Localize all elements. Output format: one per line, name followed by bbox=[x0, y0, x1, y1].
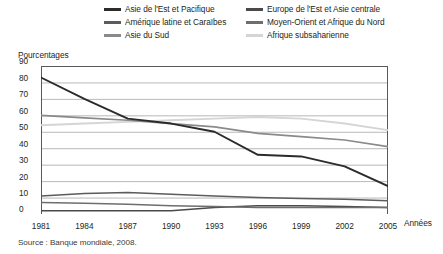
x-tick-label-1996: 1996 bbox=[241, 222, 275, 230]
legend-swatch-icon bbox=[246, 8, 263, 10]
y-tick-label-60: 60 bbox=[19, 107, 41, 115]
legend-item-label: Afrique subsaharienne bbox=[267, 29, 349, 42]
legend-item-1[interactable]: Europe de l'Est et Asie centrale bbox=[246, 3, 440, 16]
chart-legend: Asie de l'Est et PacifiqueEurope de l'Es… bbox=[104, 3, 440, 42]
legend-swatch-icon bbox=[104, 8, 121, 10]
legend-swatch-icon bbox=[104, 34, 121, 36]
x-tick-label-1999: 1999 bbox=[284, 222, 318, 230]
series-line-0 bbox=[41, 78, 388, 187]
plot-svg bbox=[41, 66, 388, 214]
x-tick-label-1981: 1981 bbox=[24, 222, 58, 230]
legend-item-4[interactable]: Asie du Sud bbox=[104, 29, 246, 42]
legend-item-5[interactable]: Afrique subsaharienne bbox=[246, 29, 440, 42]
legend-item-label: Europe de l'Est et Asie centrale bbox=[267, 3, 380, 16]
legend-item-label: Asie du Sud bbox=[125, 29, 169, 42]
legend-item-3[interactable]: Moyen-Orient et Afrique du Nord bbox=[246, 16, 440, 29]
source-note: Source : Banque mondiale, 2008. bbox=[18, 238, 137, 247]
y-tick-label-50: 50 bbox=[19, 123, 41, 131]
y-tick-label-40: 40 bbox=[19, 140, 41, 148]
legend-item-label: Asie de l'Est et Pacifique bbox=[125, 3, 215, 16]
legend-item-2[interactable]: Amérique latine et Caraïbes bbox=[104, 16, 246, 29]
legend-swatch-icon bbox=[104, 21, 121, 23]
series-line-2 bbox=[41, 193, 388, 201]
y-tick-label-10: 10 bbox=[19, 189, 41, 197]
x-tick-label-1984: 1984 bbox=[67, 222, 101, 230]
y-tick-label-90: 90 bbox=[19, 57, 41, 65]
legend-item-label: Moyen-Orient et Afrique du Nord bbox=[267, 16, 385, 29]
y-tick-label-80: 80 bbox=[19, 74, 41, 82]
y-tick-label-20: 20 bbox=[19, 173, 41, 181]
y-tick-label-30: 30 bbox=[19, 156, 41, 164]
legend-item-0[interactable]: Asie de l'Est et Pacifique bbox=[104, 3, 246, 16]
legend-item-label: Amérique latine et Caraïbes bbox=[125, 16, 226, 29]
x-axis-title: Années bbox=[404, 218, 432, 228]
series-line-3 bbox=[41, 202, 388, 207]
legend-swatch-icon bbox=[246, 21, 263, 23]
x-tick-label-2005: 2005 bbox=[371, 222, 405, 230]
x-tick-label-1990: 1990 bbox=[154, 222, 188, 230]
x-tick-label-1987: 1987 bbox=[111, 222, 145, 230]
x-tick-label-1993: 1993 bbox=[198, 222, 232, 230]
legend-swatch-icon bbox=[246, 34, 263, 36]
poverty-rate-line-chart: Asie de l'Est et PacifiqueEurope de l'Es… bbox=[0, 0, 443, 254]
y-tick-label-70: 70 bbox=[19, 90, 41, 98]
plot-area bbox=[41, 66, 388, 214]
x-tick-label-2002: 2002 bbox=[328, 222, 362, 230]
y-tick-label-0: 0 bbox=[19, 205, 41, 213]
